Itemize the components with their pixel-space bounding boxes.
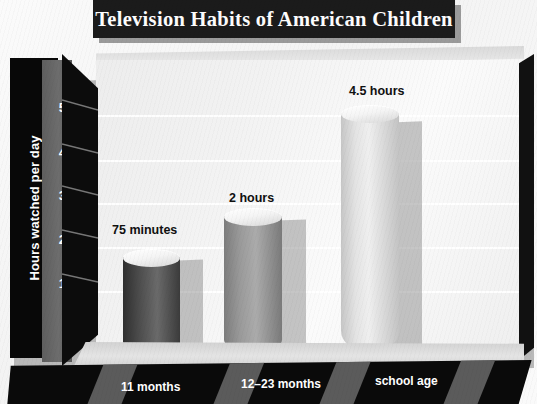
bar-2-cylinder bbox=[224, 216, 282, 350]
bar-shadow-1 bbox=[179, 260, 203, 350]
bar-1-top-ellipse bbox=[123, 249, 180, 267]
bar-3-value-label: 4.5 hours bbox=[349, 84, 405, 98]
plot-area: 75 minutes 2 hours 4.5 hours bbox=[96, 60, 520, 350]
bar-12-23-months[interactable] bbox=[224, 216, 282, 350]
x-axis-title: Age bbox=[0, 400, 537, 404]
bar-1-cylinder bbox=[123, 257, 180, 350]
x-category-school-age: school age bbox=[375, 374, 438, 388]
bar-3-cylinder bbox=[341, 113, 399, 350]
base-stripe-4 bbox=[438, 360, 500, 404]
bar-school-age[interactable] bbox=[341, 113, 399, 350]
bar-3-top-ellipse bbox=[341, 105, 399, 123]
plot-right-wall bbox=[519, 54, 534, 360]
chart-body: 75 minutes 2 hours 4.5 hours bbox=[0, 46, 537, 391]
gridline-4 bbox=[96, 160, 520, 162]
y-axis-title: Hours watched per day bbox=[27, 135, 42, 280]
plot-left-wall bbox=[62, 54, 98, 366]
x-category-11-months: 11 months bbox=[121, 380, 180, 394]
chart-title: Television Habits of American Children bbox=[95, 8, 453, 31]
x-axis-base: 11 months 12–23 months school age Age bbox=[0, 360, 537, 404]
title-banner: Television Habits of American Children bbox=[93, 0, 455, 38]
chart-image: Television Habits of American Children 7… bbox=[0, 0, 537, 404]
bar-1-value-label: 75 minutes bbox=[112, 223, 177, 237]
x-category-12-23-months: 12–23 months bbox=[241, 377, 321, 391]
bar-2-value-label: 2 hours bbox=[229, 191, 274, 205]
base-stripe-3 bbox=[314, 360, 376, 404]
gridline-5 bbox=[96, 115, 520, 117]
left-wall-gridlines bbox=[62, 54, 98, 366]
gridline-3 bbox=[96, 203, 520, 205]
bar-11-months[interactable] bbox=[123, 257, 180, 350]
bar-2-top-ellipse bbox=[224, 208, 282, 226]
